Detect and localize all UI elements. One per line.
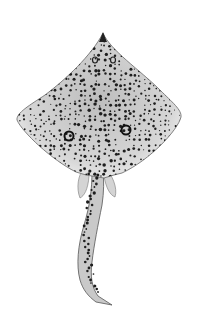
spot xyxy=(30,134,31,135)
spot xyxy=(160,74,162,76)
spot xyxy=(129,112,132,115)
spot xyxy=(118,103,121,106)
spot xyxy=(88,104,90,106)
spot xyxy=(29,168,30,169)
spot xyxy=(148,113,149,114)
spot xyxy=(159,150,161,152)
spot xyxy=(80,155,82,157)
spot xyxy=(165,135,166,136)
tail-spot xyxy=(89,198,92,201)
spot xyxy=(19,73,21,75)
spot xyxy=(105,148,107,150)
spot xyxy=(129,155,131,157)
spot xyxy=(98,107,101,110)
spot xyxy=(133,138,136,141)
spot xyxy=(55,115,57,117)
spot xyxy=(93,102,96,105)
spot xyxy=(14,85,15,86)
spot xyxy=(129,139,131,141)
spot xyxy=(140,66,141,67)
spot xyxy=(55,63,57,65)
spot xyxy=(74,158,76,160)
spot xyxy=(35,128,37,130)
spot xyxy=(158,99,160,101)
spot xyxy=(138,98,139,99)
spot xyxy=(124,118,126,120)
tail-spot xyxy=(89,213,91,215)
spot xyxy=(100,175,102,177)
spot xyxy=(53,122,56,125)
spot xyxy=(97,69,100,72)
spot xyxy=(64,70,66,72)
spot xyxy=(93,160,95,162)
spot xyxy=(114,139,116,141)
spot xyxy=(39,113,41,115)
spot xyxy=(119,158,122,161)
spot xyxy=(160,95,162,97)
spot xyxy=(118,109,120,111)
spot xyxy=(180,143,182,145)
spot xyxy=(89,115,92,118)
tail-spot xyxy=(90,210,92,212)
spot xyxy=(163,90,165,92)
spot xyxy=(159,114,161,116)
spot xyxy=(128,135,130,137)
spot xyxy=(160,173,162,175)
spot xyxy=(84,95,86,97)
spot xyxy=(30,55,32,57)
spot xyxy=(15,153,17,155)
spot xyxy=(19,45,20,46)
spot xyxy=(25,45,26,46)
spot xyxy=(164,120,166,122)
spot xyxy=(120,44,121,45)
spot xyxy=(19,134,20,135)
spot xyxy=(108,45,111,48)
spot xyxy=(179,168,180,169)
spot xyxy=(153,108,156,111)
spot xyxy=(79,139,82,142)
spot xyxy=(68,62,71,65)
spot xyxy=(31,123,33,125)
spot xyxy=(103,128,106,131)
spot xyxy=(87,173,90,176)
spot xyxy=(18,159,20,161)
spot xyxy=(64,74,67,77)
spot xyxy=(90,128,92,130)
spot xyxy=(79,109,81,111)
spot xyxy=(104,124,107,127)
spot xyxy=(68,78,69,79)
spot xyxy=(69,128,70,129)
spot xyxy=(94,69,97,72)
spot xyxy=(175,134,176,135)
spot xyxy=(35,118,36,119)
spot xyxy=(168,124,169,125)
spot xyxy=(75,89,76,90)
spot xyxy=(53,164,56,167)
spot xyxy=(85,48,86,49)
spot xyxy=(141,145,142,146)
spot xyxy=(80,164,82,166)
spot xyxy=(107,124,110,127)
spot xyxy=(150,60,151,61)
spot xyxy=(33,150,34,151)
spot xyxy=(164,68,166,70)
spot xyxy=(148,130,150,132)
spot xyxy=(124,104,127,107)
spot xyxy=(54,45,57,48)
spot xyxy=(89,95,91,97)
spot xyxy=(105,97,107,99)
spot xyxy=(127,148,130,151)
spot xyxy=(135,79,137,81)
spot xyxy=(149,53,151,55)
spot xyxy=(26,93,27,94)
spot xyxy=(70,84,72,86)
spot xyxy=(109,73,112,76)
spot xyxy=(48,79,50,81)
tail-spot xyxy=(95,183,98,186)
spot xyxy=(90,125,92,127)
spot xyxy=(180,44,182,46)
spot xyxy=(133,83,135,85)
spot xyxy=(35,38,37,40)
spot xyxy=(145,129,147,131)
spot xyxy=(39,50,41,52)
